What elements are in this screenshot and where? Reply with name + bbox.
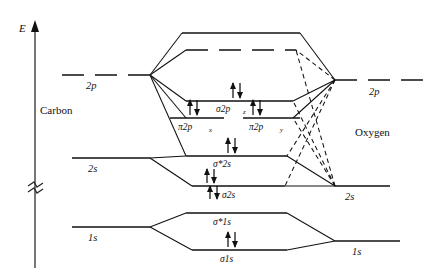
mo-level-sigmastar1s: σ*1s [186,213,287,227]
mo-pi2py-sub: y [279,126,284,133]
mo-sigma2s-label: σ2s [222,190,235,200]
correlation-lines-oxygen [285,33,335,250]
mo-level-sigma1s: σ1s [192,231,287,264]
oxygen-2p-label: 2p [369,86,380,97]
carbon-atomic-levels: 2p 2s 1s Carbon [40,75,150,243]
mo-sigmastar2s-label: σ*2s [213,159,231,169]
carbon-1s-label: 1s [88,232,97,243]
carbon-atom-label: Carbon [40,104,73,116]
mo-diagram-figure: E [0,0,438,275]
oxygen-1s-label: 1s [352,246,361,257]
mo-level-sigma2pz: σ2p z [186,82,293,115]
carbon-2p-label: 2p [86,80,97,91]
mo-level-sigma2s: σ2s [192,168,285,200]
mo-sigma1s-label: σ1s [220,254,233,264]
mo-level-pi2py: π2p y [243,99,300,133]
energy-axis-arrowhead [31,20,39,32]
oxygen-atomic-levels: 2p 2s 1s Oxygen [335,80,423,257]
correlation-lines-carbon [150,33,192,250]
electron-pair-sigma2s-lower [207,185,220,200]
mo-pi2px-label: π2p [178,122,193,132]
electron-pair-sigma1s [225,231,238,248]
electron-pair-sigmastar2s [225,137,238,154]
oxygen-2s-label: 2s [345,191,354,202]
mo-pi2py-label: π2p [249,122,264,132]
mo-diagram-canvas: E [0,0,438,275]
mo-level-sigmastar2s: σ*2s [186,137,287,169]
carbon-2s-label: 2s [88,163,97,174]
electron-pair-sigma2pz [230,82,243,99]
mo-sigmastar1s-label: σ*1s [213,217,231,227]
mo-pi2px-sub: x [208,126,212,133]
oxygen-atom-label: Oxygen [355,126,390,138]
energy-axis: E [18,20,43,268]
mo-sigma2pz-label: σ2p [216,104,230,114]
electron-pair-sigma2s-upper [204,168,217,184]
energy-axis-label: E [18,22,26,34]
mo-sigma2pz-sub: z [242,108,246,115]
